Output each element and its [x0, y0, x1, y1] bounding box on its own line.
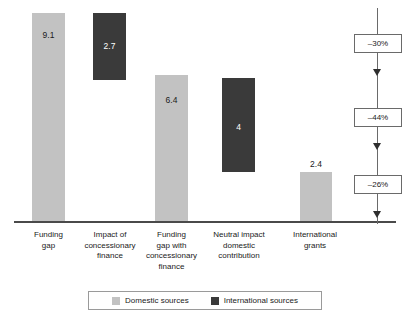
change-annotation-column: –30% –44% –26%: [352, 8, 404, 224]
x-axis-label-funding-gap-with-concessionary-finance: Funding gap with concessionary finance: [139, 230, 204, 272]
x-axis-label-impact-of-concessionary-finance: Impact of concessionary finance: [76, 230, 144, 262]
bar-value-international-grants: 2.4: [300, 160, 332, 169]
legend-label-international-sources: International sources: [224, 296, 298, 305]
bar-value-neutral-impact-domestic-contribution: 4: [222, 123, 255, 132]
bar-international-grants: [300, 172, 332, 222]
change-box-2: –44%: [354, 108, 402, 127]
arrow-down-icon-2: [373, 143, 381, 150]
x-axis-baseline: [14, 221, 396, 223]
plot-area: 9.1 2.7 6.4 4 2.4 Funding gap Impact of …: [0, 0, 410, 325]
change-box-1: –30%: [354, 34, 402, 53]
arrow-down-icon-1: [373, 69, 381, 76]
bar-value-impact-of-concessionary-finance: 2.7: [93, 42, 126, 51]
legend-swatch-international-icon: [211, 297, 219, 305]
legend-swatch-domestic-icon: [112, 297, 120, 305]
x-axis-label-international-grants: International grants: [280, 230, 350, 251]
x-axis-label-funding-gap: Funding gap: [17, 230, 80, 251]
waterfall-chart: 9.1 2.7 6.4 4 2.4 Funding gap Impact of …: [0, 0, 410, 325]
x-axis-label-neutral-impact-domestic-contribution: Neutral impact domestic contribution: [203, 230, 275, 262]
legend-item-international-sources: International sources: [211, 296, 298, 305]
change-box-3: –26%: [354, 175, 402, 194]
legend-label-domestic-sources: Domestic sources: [125, 296, 189, 305]
legend-item-domestic-sources: Domestic sources: [112, 296, 189, 305]
arrow-down-icon-3: [373, 211, 381, 218]
bar-value-funding-gap: 9.1: [32, 31, 65, 40]
legend: Domestic sources International sources: [88, 291, 322, 310]
bar-funding-gap: [32, 13, 65, 222]
bar-value-funding-gap-with-concessionary-finance: 6.4: [155, 96, 188, 105]
